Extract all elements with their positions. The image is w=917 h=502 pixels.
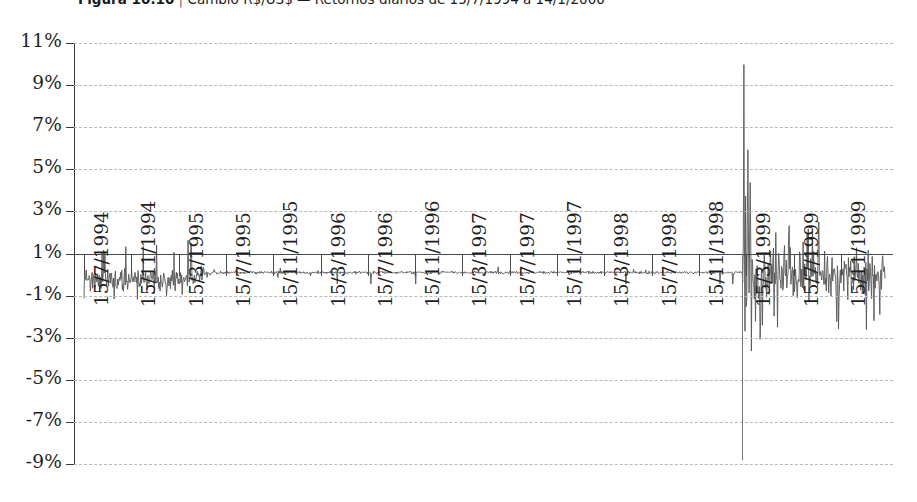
x-tick-mark xyxy=(131,254,132,276)
figure-number: Figura 10.10 xyxy=(78,0,174,7)
x-axis-label: 15/3/1999 xyxy=(753,212,774,307)
x-tick-mark xyxy=(794,254,795,276)
x-axis-label: 15/3/1997 xyxy=(469,212,490,307)
y-tick-mark xyxy=(66,464,74,465)
x-axis-label: 15/3/1995 xyxy=(186,212,207,307)
x-tick-mark xyxy=(557,254,558,276)
y-axis-label: 5% xyxy=(0,156,62,177)
x-tick-mark xyxy=(604,254,605,276)
x-axis-label: 15/11/1995 xyxy=(280,200,301,307)
y-axis-label: -9% xyxy=(0,451,62,472)
y-axis-label: -3% xyxy=(0,325,62,346)
y-tick-mark xyxy=(66,127,74,128)
x-tick-mark xyxy=(368,254,369,276)
gridline-neg7pct xyxy=(74,422,893,423)
y-tick-mark xyxy=(66,169,74,170)
x-axis-label: 15/11/1999 xyxy=(848,200,869,307)
x-axis-label: 15/7/1999 xyxy=(801,212,822,307)
y-axis-label: 1% xyxy=(0,241,62,262)
x-tick-mark xyxy=(652,254,653,276)
y-tick-mark xyxy=(66,380,74,381)
x-axis-label: 15/7/1995 xyxy=(233,212,254,307)
figure-title: Figura 10.10 | Câmbio R$/US$ — Retornos … xyxy=(78,0,605,7)
gridline-neg5pct xyxy=(74,380,893,381)
x-tick-mark xyxy=(84,254,85,276)
title-separator: | xyxy=(179,0,184,7)
gridline-neg9pct xyxy=(74,464,893,465)
x-axis-label: 15/11/1998 xyxy=(706,200,727,307)
x-tick-mark xyxy=(462,254,463,276)
y-axis-label: 3% xyxy=(0,198,62,219)
x-axis-label: 15/7/1996 xyxy=(375,212,396,307)
x-axis-label: 15/3/1996 xyxy=(328,212,349,307)
break-vertical-line xyxy=(742,254,743,460)
y-tick-mark xyxy=(66,338,74,339)
x-tick-mark xyxy=(841,254,842,276)
figure-title-clipped: Figura 10.10 | Câmbio R$/US$ — Retornos … xyxy=(0,0,917,11)
y-axis-label: 11% xyxy=(0,30,62,51)
y-axis-label: 9% xyxy=(0,72,62,93)
gridline-11pct xyxy=(74,43,893,44)
x-tick-mark xyxy=(226,254,227,276)
returns-line-path xyxy=(84,65,885,351)
x-axis-label: 15/7/1994 xyxy=(91,211,112,306)
gridline-neg3pct xyxy=(74,338,893,339)
title-text: Câmbio R$/US$ — Retornos diários de 15/7… xyxy=(187,0,604,7)
gridline-7pct xyxy=(74,127,893,128)
y-axis-label: -7% xyxy=(0,409,62,430)
y-tick-mark xyxy=(66,211,74,212)
x-axis-label: 15/11/1997 xyxy=(564,200,585,307)
y-axis-label: 7% xyxy=(0,114,62,135)
y-axis-label: -1% xyxy=(0,283,62,304)
y-tick-mark xyxy=(66,296,74,297)
x-axis-label: 15/7/1998 xyxy=(659,212,680,307)
x-tick-mark xyxy=(699,254,700,276)
y-axis-label: -5% xyxy=(0,367,62,388)
x-tick-mark xyxy=(746,254,747,276)
x-axis-label: 15/3/1998 xyxy=(611,212,632,307)
y-tick-mark xyxy=(66,85,74,86)
gridline-9pct xyxy=(74,85,893,86)
x-tick-mark xyxy=(321,254,322,276)
x-tick-mark xyxy=(415,254,416,276)
y-tick-mark xyxy=(66,254,74,255)
x-axis-label: 15/11/1994 xyxy=(138,200,159,307)
x-tick-mark xyxy=(510,254,511,276)
y-tick-mark xyxy=(66,43,74,44)
figure-container: Figura 10.10 | Câmbio R$/US$ — Retornos … xyxy=(0,0,917,502)
gridline-5pct xyxy=(74,169,893,170)
x-tick-mark xyxy=(179,254,180,276)
x-axis-label: 15/7/1997 xyxy=(517,212,538,307)
y-tick-mark xyxy=(66,422,74,423)
x-tick-mark xyxy=(273,254,274,276)
x-axis-label: 15/11/1996 xyxy=(422,200,443,307)
